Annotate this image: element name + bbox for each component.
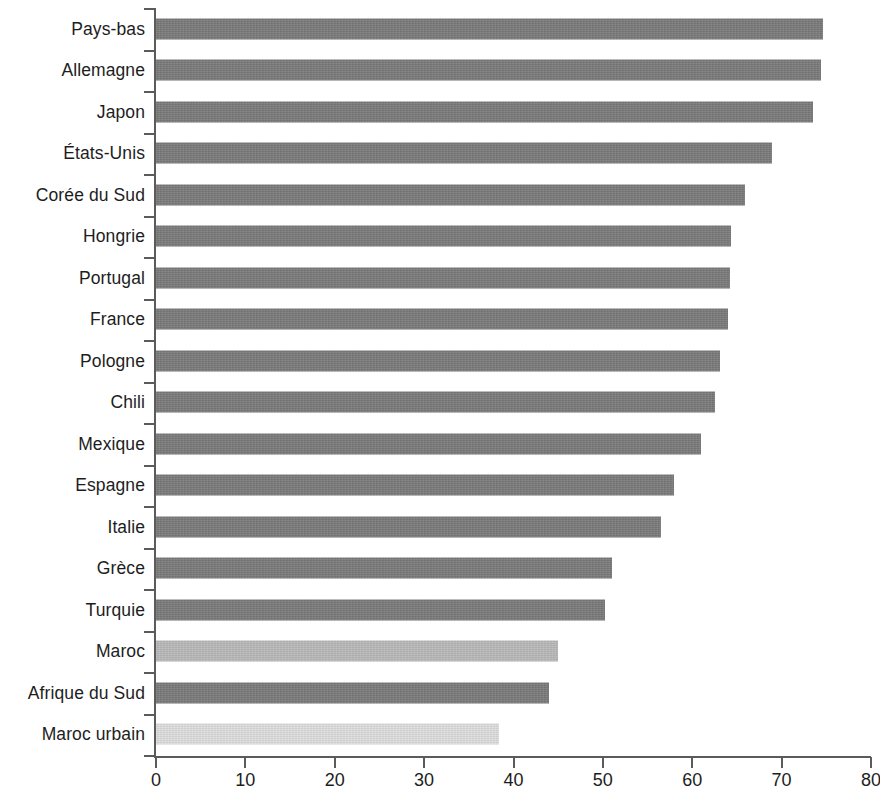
chart-row: Mexique: [0, 423, 880, 465]
y-axis-tick: [144, 340, 155, 342]
x-axis-tick-label: 30: [414, 770, 434, 791]
chart-row: Portugal: [0, 257, 880, 299]
y-axis-tick: [144, 423, 155, 425]
category-label: États-Unis: [63, 143, 145, 164]
y-axis-tick: [144, 506, 155, 508]
chart-row: Espagne: [0, 465, 880, 507]
x-axis-tick-label: 20: [325, 770, 345, 791]
x-axis-tick: [334, 757, 336, 768]
bar: [156, 475, 674, 496]
x-axis-tick: [513, 757, 515, 768]
chart-row: Afrique du Sud: [0, 672, 880, 714]
y-axis-tick: [144, 257, 155, 259]
chart-row: Hongrie: [0, 216, 880, 258]
bar: [156, 433, 701, 454]
bar: [156, 18, 823, 39]
x-axis-tick: [781, 757, 783, 768]
y-axis-tick: [144, 672, 155, 674]
y-axis-tick: [144, 465, 155, 467]
chart-row: Pologne: [0, 340, 880, 382]
category-label: Chili: [110, 392, 145, 413]
bar: [156, 682, 549, 703]
category-label: Portugal: [79, 267, 145, 288]
x-axis-tick-label: 60: [682, 770, 702, 791]
x-axis-tick: [691, 757, 693, 768]
bar: [156, 516, 661, 537]
bar: [156, 641, 558, 662]
y-axis-tick: [144, 91, 155, 93]
chart-row: États-Unis: [0, 133, 880, 175]
chart-row: Maroc urbain: [0, 714, 880, 756]
category-label: Mexique: [78, 433, 145, 454]
chart-row: France: [0, 299, 880, 341]
category-label: Turquie: [86, 599, 145, 620]
category-label: Corée du Sud: [36, 184, 145, 205]
chart-row: Chili: [0, 382, 880, 424]
bar: [156, 143, 772, 164]
bar-chart: Pays-basAllemagneJaponÉtats-UnisCorée du…: [0, 0, 880, 799]
x-axis-tick-label: 40: [503, 770, 523, 791]
y-axis-tick: [144, 50, 155, 52]
y-axis-tick: [144, 548, 155, 550]
bar: [156, 558, 612, 579]
y-axis-tick: [144, 714, 155, 716]
category-label: Pologne: [80, 350, 145, 371]
category-label: Grèce: [97, 558, 145, 579]
chart-row: Grèce: [0, 548, 880, 590]
category-label: Afrique du Sud: [28, 682, 145, 703]
bar: [156, 60, 821, 81]
x-axis-tick: [244, 757, 246, 768]
category-label: Italie: [107, 516, 145, 537]
chart-row: Turquie: [0, 589, 880, 631]
chart-row: Allemagne: [0, 50, 880, 92]
x-axis-tick-label: 0: [151, 770, 161, 791]
chart-row: Italie: [0, 506, 880, 548]
category-label: Hongrie: [83, 226, 145, 247]
category-label: Pays-bas: [71, 18, 145, 39]
x-axis-tick: [155, 757, 157, 768]
x-axis-tick-label: 80: [861, 770, 880, 791]
y-axis-tick: [144, 174, 155, 176]
category-label: Maroc urbain: [42, 724, 145, 745]
bar: [156, 392, 715, 413]
bar: [156, 724, 499, 745]
bar: [156, 309, 728, 330]
chart-row: Pays-bas: [0, 8, 880, 50]
y-axis-tick: [144, 133, 155, 135]
bar: [156, 184, 745, 205]
chart-row: Corée du Sud: [0, 174, 880, 216]
category-label: Espagne: [75, 475, 145, 496]
x-axis-tick-label: 70: [772, 770, 792, 791]
category-label: France: [90, 309, 145, 330]
y-axis-tick: [144, 8, 155, 10]
category-label: Japon: [97, 101, 145, 122]
chart-row: Maroc: [0, 631, 880, 673]
category-label: Maroc: [96, 641, 145, 662]
x-axis-tick: [423, 757, 425, 768]
y-axis-tick: [144, 755, 155, 757]
x-axis-tick-label: 10: [235, 770, 255, 791]
bar: [156, 350, 720, 371]
category-label: Allemagne: [61, 60, 145, 81]
bar: [156, 267, 730, 288]
y-axis-tick: [144, 631, 155, 633]
bar: [156, 599, 605, 620]
x-axis-tick: [602, 757, 604, 768]
chart-row: Japon: [0, 91, 880, 133]
bar: [156, 101, 813, 122]
y-axis-tick: [144, 589, 155, 591]
x-axis-tick-label: 50: [593, 770, 613, 791]
y-axis-tick: [144, 216, 155, 218]
y-axis-tick: [144, 382, 155, 384]
y-axis-tick: [144, 299, 155, 301]
bar: [156, 226, 731, 247]
x-axis-tick: [870, 757, 872, 768]
